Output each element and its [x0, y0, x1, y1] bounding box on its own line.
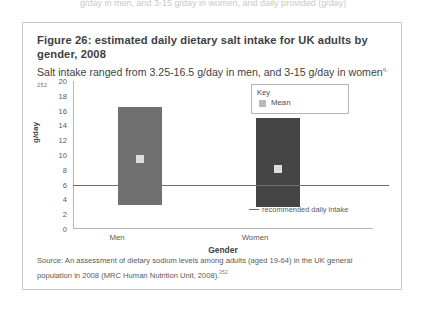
figure-title: Figure 26: estimated daily dietary salt … — [37, 33, 387, 61]
chart-legend: Key Mean — [251, 84, 349, 114]
recommended-intake-line — [73, 185, 389, 186]
figure-source: Source: An assessment of dietary sodium … — [37, 255, 387, 281]
figure-source-superscript: 252 — [219, 269, 227, 275]
y-tick-12: 12 — [51, 137, 67, 144]
y-tick-10: 10 — [51, 152, 67, 159]
recommended-intake-label: recommended daily intake — [262, 205, 348, 214]
y-tick-20: 20 — [51, 78, 67, 85]
page-cutoff-text: g/day in men, and 3-15 g/day in women, a… — [0, 0, 424, 14]
y-tick-14: 14 — [51, 122, 67, 129]
mean-marker-women — [274, 165, 282, 173]
y-tick-6: 6 — [51, 182, 67, 189]
legend-title: Key — [257, 88, 270, 97]
y-tick-8: 8 — [51, 167, 67, 174]
legend-label-mean: Mean — [271, 98, 291, 107]
y-tick-16: 16 — [51, 108, 67, 115]
y-tick-4: 4 — [51, 196, 67, 203]
y-axis-title: g/day — [31, 122, 40, 143]
range-bar-men[interactable] — [118, 107, 162, 205]
y-tick-0: 0 — [51, 226, 67, 233]
chart-plot-area: g/day 20 18 16 14 12 10 8 6 4 2 0 recomm… — [37, 81, 389, 251]
y-tick-2: 2 — [51, 211, 67, 218]
mean-marker-men — [136, 155, 144, 163]
x-tick-women: Women — [225, 233, 285, 242]
figure-container: Figure 26: estimated daily dietary salt … — [22, 22, 402, 290]
recommended-intake-dash — [249, 209, 259, 210]
x-tick-men: Men — [87, 233, 147, 242]
figure-subtitle-text: Salt intake ranged from 3.25-16.5 g/day … — [37, 66, 383, 78]
y-axis-ticks: 20 18 16 14 12 10 8 6 4 2 0 — [47, 81, 67, 229]
figure-source-text: Source: An assessment of dietary sodium … — [37, 256, 352, 279]
x-axis-title: Gender — [73, 245, 373, 255]
legend-swatch-mean — [259, 100, 266, 107]
y-tick-18: 18 — [51, 93, 67, 100]
range-bar-women[interactable] — [256, 118, 300, 207]
